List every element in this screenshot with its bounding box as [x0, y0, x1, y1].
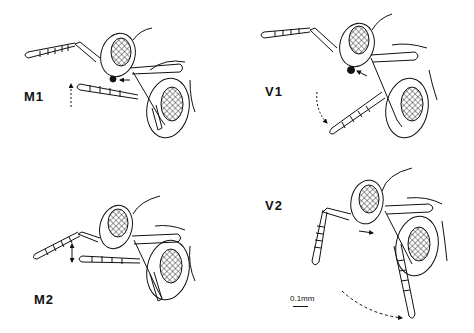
panel-v1: V1 — [237, 0, 474, 166]
insect-heads-drawing-m2 — [0, 166, 237, 333]
panel-label-v2: V2 — [265, 198, 283, 213]
panel-label-m2: M2 — [34, 292, 54, 307]
insect-heads-drawing-v1 — [237, 0, 474, 166]
panel-label-v1: V1 — [265, 84, 283, 99]
panel-label-m1: M1 — [24, 89, 44, 104]
scale-bar — [293, 306, 308, 307]
panel-v2: V2 0.1mm — [237, 166, 474, 332]
insect-heads-drawing-m1 — [0, 0, 237, 166]
insect-heads-drawing-v2 — [237, 166, 474, 333]
scale-bar-label: 0.1mm — [290, 294, 314, 303]
panel-m1: M1 — [0, 0, 237, 166]
panel-m2: M2 — [0, 166, 237, 332]
